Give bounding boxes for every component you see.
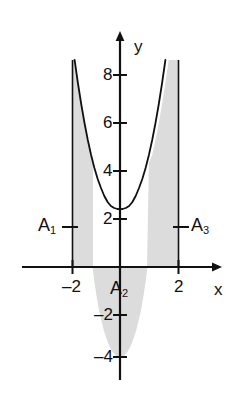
- y-tick-label-minus-4: –4: [94, 348, 113, 365]
- y-tick-label-4: 4: [103, 162, 112, 179]
- region-label-a2-base: A: [110, 278, 122, 298]
- region-label-a1: A1: [38, 216, 56, 234]
- x-axis-label: x: [214, 281, 223, 298]
- region-label-a3: A3: [191, 216, 209, 234]
- y-tick-label-2: 2: [103, 210, 112, 227]
- y-tick-label-minus-2: –2: [94, 306, 113, 323]
- y-axis-label: y: [134, 38, 143, 55]
- region-label-a2: A2: [110, 279, 128, 297]
- region-label-a3-sub: 3: [203, 224, 209, 236]
- y-tick-label-6: 6: [103, 114, 112, 131]
- region-label-a1-base: A: [38, 215, 50, 235]
- x-tick-label-2: 2: [174, 278, 183, 295]
- plot-canvas: [0, 0, 242, 401]
- shaded-region-a3: [147, 60, 179, 267]
- y-tick-label-8: 8: [103, 66, 112, 83]
- x-tick-label-minus-2: –2: [62, 278, 81, 295]
- parabola-figure: 8 6 4 2 –2 –4 –2 2 y x A1 A2 A3: [0, 0, 242, 401]
- region-label-a1-sub: 1: [50, 224, 56, 236]
- region-label-a2-sub: 2: [122, 287, 128, 299]
- shaded-region-a1: [73, 60, 94, 267]
- region-label-a3-base: A: [191, 215, 203, 235]
